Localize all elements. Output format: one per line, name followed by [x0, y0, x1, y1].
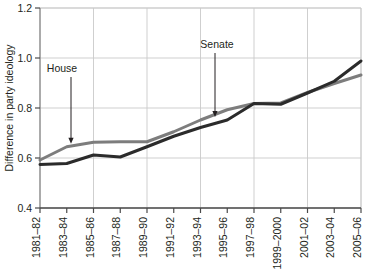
y-tick-label: 1.0	[17, 52, 32, 64]
y-tick-label: 1.2	[17, 2, 32, 14]
annotation-label-house: House	[47, 62, 78, 74]
x-tick-label: 2005–06	[351, 217, 363, 258]
x-tick-label: 1985–86	[84, 217, 96, 258]
x-tick-label: 1997–98	[244, 217, 256, 258]
line-chart: 0.40.60.81.01.2 1981–821983–841985–86198…	[0, 0, 372, 274]
y-axis-label: Difference in party ideology	[3, 44, 15, 172]
x-tick-label: 1993–94	[191, 217, 203, 258]
x-tick-label: 1983–84	[57, 217, 69, 258]
y-axis-ticks: 0.40.60.81.01.2	[17, 2, 40, 214]
x-tick-label: 2001–02	[298, 217, 310, 258]
x-tick-label: 1989–90	[137, 217, 149, 258]
x-tick-label: 1991–92	[164, 217, 176, 258]
chart-figure: 0.40.60.81.01.2 1981–821983–841985–86198…	[0, 0, 372, 274]
y-tick-label: 0.8	[17, 102, 32, 114]
x-tick-label: 1995–96	[217, 217, 229, 258]
x-tick-label: 2003–04	[324, 217, 336, 258]
x-axis-ticks: 1981–821983–841985–861987–881989–901991–…	[30, 208, 363, 270]
x-tick-label: 1999–2000	[271, 217, 283, 270]
annotation-label-senate: Senate	[200, 38, 233, 50]
x-tick-label: 1987–88	[110, 217, 122, 258]
y-tick-label: 0.6	[17, 152, 32, 164]
x-tick-label: 1981–82	[30, 217, 42, 258]
y-tick-label: 0.4	[17, 202, 32, 214]
